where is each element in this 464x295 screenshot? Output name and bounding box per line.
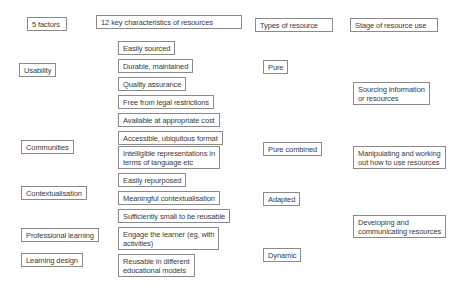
characteristic-box-easily-repurposed: Easily repurposed (118, 173, 186, 187)
stage-box-sourcing-information: Sourcing information or resources (353, 82, 430, 105)
characteristic-box-engage-the-learner: Engage the learner (eg, with activities) (118, 227, 219, 250)
characteristic-box-durable-maintained: Durable, maintained (118, 59, 193, 73)
factor-box-contextualisation: Contextualisation (21, 186, 87, 200)
type-box-dynamic: Dynamic (263, 248, 301, 262)
characteristic-box-quality-assurance: Quality assurance (118, 77, 186, 91)
characteristic-box-free-from-legal-restrictions: Free from legal restrictions (118, 95, 214, 109)
characteristic-box-accessible-ubiquitous-format: Accessible, ubiquitous format (118, 131, 223, 145)
characteristic-box-intelligible-representations: Intelligible representations in terms of… (118, 146, 220, 169)
type-box-pure-combined: Pure combined (263, 142, 322, 156)
characteristic-box-easily-sourced: Easily sourced (118, 41, 175, 55)
type-box-pure: Pure (263, 60, 288, 74)
stage-box-manipulating-working-out: Manipulating and working out how to use … (353, 146, 446, 169)
characteristic-box-sufficiently-small: Sufficiently small to be reusable (118, 209, 230, 223)
header-key-characteristics: 12 key characteristics of resources (96, 15, 242, 29)
stage-box-developing-communicating: Developing and communicating resources (353, 215, 446, 238)
type-box-adapted: Adapted (263, 192, 300, 206)
factor-box-communities: Communities (21, 140, 74, 154)
characteristic-box-reusable-educational-models: Reusable in different educational models (118, 254, 195, 277)
header-types-of-resource: Types of resource (255, 18, 333, 32)
resource-characteristics-diagram: 5 factors 12 key characteristics of reso… (0, 0, 464, 295)
characteristic-box-available-at-appropriate-cost: Available at appropriate cost (118, 113, 220, 127)
header-five-factors: 5 factors (27, 17, 67, 31)
factor-box-professional-learning: Professional learning (21, 228, 99, 242)
header-stage-of-resource-use: Stage of resource use (350, 18, 438, 32)
characteristic-box-meaningful-contextualisation: Meaningful contextualisation (118, 191, 220, 205)
factor-box-learning-design: Learning design (21, 253, 83, 267)
factor-box-usability: Usability (19, 63, 56, 77)
